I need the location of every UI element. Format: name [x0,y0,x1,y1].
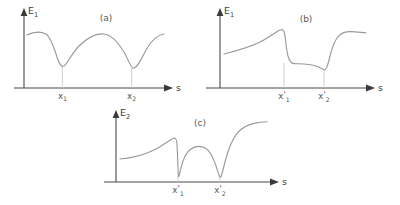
panel-a: E1 s (a) x1 x2 [0,0,200,105]
panel-b-x-axis-arrow-icon [366,85,375,92]
panel-a-curve [27,32,164,68]
panel-a-plot: E1 s (a) x1 x2 [0,0,200,105]
panel-c: E2 s (c) x'1 x'2 [90,100,310,205]
panel-a-y-axis-arrow-icon [21,8,28,16]
panel-b-tag: (b) [300,14,313,24]
panel-a-x-axis-arrow-icon [164,85,173,92]
panel-c-x-axis-label: s [282,176,287,187]
panel-a-x-axis-label: s [176,82,181,93]
panel-a-y-axis-label: E1 [28,5,38,19]
panel-b-y-axis-label: E1 [224,5,234,19]
panel-b-tick-label-2: x'2 [318,90,329,103]
panel-c-tick-label-1: x'1 [172,184,183,197]
panel-b-x-axis-label: s [378,82,383,93]
panel-c-tick-label-2: x'2 [214,184,225,197]
panel-c-plot: E2 s (c) x'1 x'2 [90,100,310,205]
physics-energy-curves-figure: E1 s (a) x1 x2 E1 s (b) x'1 x'2 [0,0,400,205]
panel-c-x-axis-arrow-icon [270,179,279,186]
panel-b-y-axis-arrow-icon [217,8,224,16]
panel-c-y-axis-label: E2 [120,107,130,121]
panel-c-y-axis-arrow-icon [113,110,120,118]
panel-b-curve [224,30,366,70]
panel-b: E1 s (b) x'1 x'2 [196,0,400,105]
panel-c-tag: (c) [194,118,206,128]
panel-b-plot: E1 s (b) x'1 x'2 [196,0,400,105]
panel-a-tag: (a) [100,13,113,23]
panel-a-tick-label-1: x1 [58,91,67,102]
panel-c-curve [120,122,267,177]
